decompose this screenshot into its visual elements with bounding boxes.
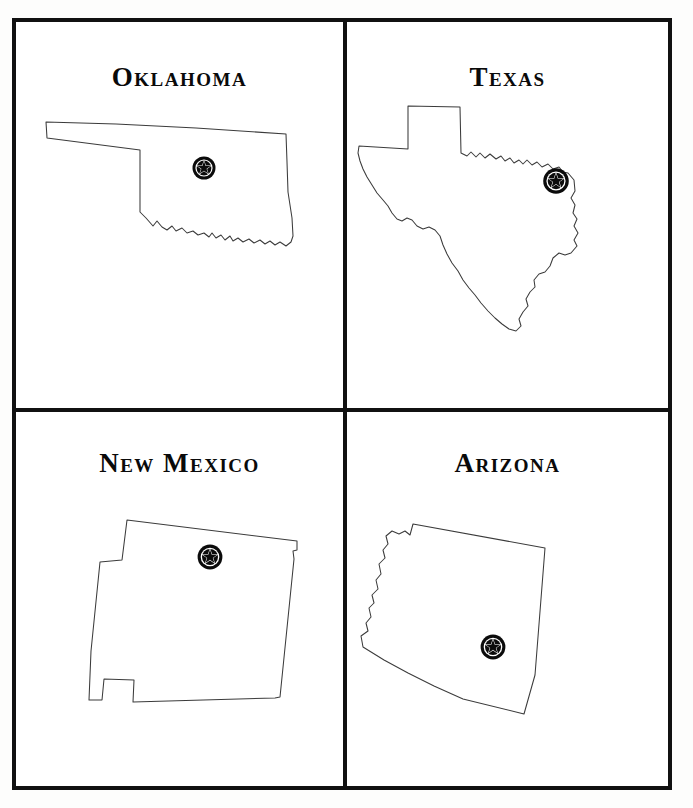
panel-title-texas: Texas: [347, 64, 668, 91]
capital-star-marker-arizona[interactable]: [481, 635, 506, 660]
badge-inner-disc-icon: [202, 549, 218, 565]
panel-oklahoma[interactable]: Oklahoma: [16, 22, 343, 408]
badge-disc-icon: [198, 545, 223, 570]
badge-ring-gap-icon: [546, 171, 565, 190]
state-outline-texas: [358, 106, 578, 331]
badge-ring-gap-icon: [484, 638, 503, 657]
badge-star-halo-icon: [201, 548, 218, 564]
capital-star-marker-new-mexico[interactable]: [198, 545, 223, 570]
badge-inner-disc-icon: [548, 173, 565, 190]
panel-title-oklahoma: Oklahoma: [16, 64, 343, 91]
badge-star-icon: [486, 640, 500, 654]
badge-star-icon: [203, 550, 217, 564]
badge-star-halo-icon: [196, 160, 212, 175]
badge-disc-icon: [543, 168, 569, 194]
badge-star-halo-icon: [547, 172, 565, 189]
panel-title-arizona: Arizona: [347, 450, 668, 477]
state-outline-arizona: [361, 524, 545, 714]
badge-ring-gap-icon: [195, 159, 212, 176]
map-plate: Oklahoma Texas: [0, 0, 693, 808]
state-outline-oklahoma: [46, 122, 293, 246]
badge-star-icon: [197, 161, 210, 174]
badge-star-icon: [549, 173, 564, 187]
panel-arizona[interactable]: Arizona: [347, 412, 668, 786]
capital-star-marker-texas[interactable]: [543, 168, 569, 194]
capital-star-marker-oklahoma[interactable]: [193, 157, 216, 180]
badge-star-halo-icon: [484, 638, 501, 654]
plate-frame: Oklahoma Texas: [12, 18, 672, 790]
panel-title-new-mexico: New Mexico: [16, 450, 343, 477]
badge-ring-gap-icon: [201, 548, 220, 567]
state-outline-new-mexico: [89, 520, 297, 702]
badge-inner-disc-icon: [197, 161, 212, 176]
badge-inner-disc-icon: [485, 639, 501, 655]
badge-disc-icon: [193, 157, 216, 180]
panel-new-mexico[interactable]: New Mexico: [16, 412, 343, 786]
panel-texas[interactable]: Texas: [347, 22, 668, 408]
badge-disc-icon: [481, 635, 506, 660]
